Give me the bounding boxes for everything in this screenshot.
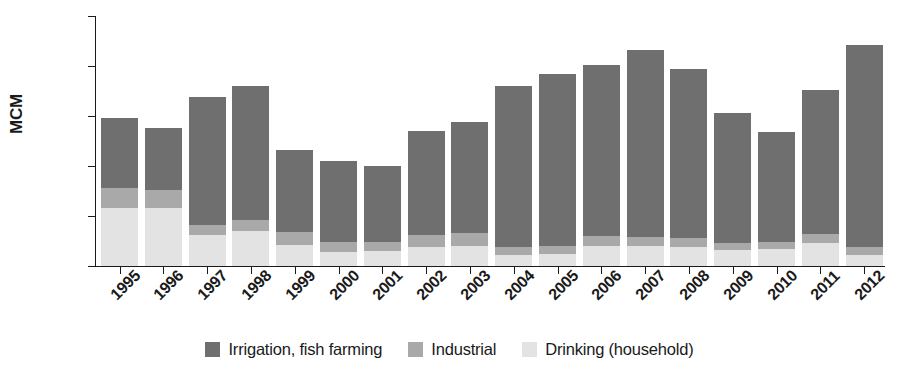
x-axis-label-2004: 2004 — [501, 267, 538, 304]
bar-segment-drinking-household — [145, 208, 182, 266]
x-axis-tick — [470, 266, 471, 274]
y-axis-tick — [88, 116, 95, 117]
bar-segment-drinking-household — [714, 250, 751, 266]
x-axis-tick — [864, 266, 865, 274]
x-axis-tick — [163, 266, 164, 274]
bar-2003[interactable] — [451, 122, 488, 266]
bar-segment-irrigation-fish-farming — [539, 74, 576, 246]
x-axis-label-2002: 2002 — [413, 267, 450, 304]
bar-segment-drinking-household — [189, 235, 226, 266]
bar-segment-irrigation-fish-farming — [364, 166, 401, 242]
x-axis-label-2007: 2007 — [632, 267, 669, 304]
bar-2000[interactable] — [320, 161, 357, 266]
legend-swatch-icon — [408, 342, 423, 357]
legend-item[interactable]: Industrial — [408, 340, 496, 359]
bar-2009[interactable] — [714, 113, 751, 266]
x-axis-tick — [645, 266, 646, 274]
bar-segment-drinking-household — [583, 246, 620, 266]
bar-segment-irrigation-fish-farming — [232, 86, 269, 220]
bar-2006[interactable] — [583, 65, 620, 266]
bar-segment-irrigation-fish-farming — [145, 128, 182, 190]
x-axis-label-2001: 2001 — [369, 267, 406, 304]
bar-2005[interactable] — [539, 74, 576, 266]
y-axis-tick — [88, 166, 95, 167]
x-axis-tick — [120, 266, 121, 274]
bar-segment-industrial — [276, 232, 313, 245]
x-axis-label-2009: 2009 — [720, 267, 757, 304]
bar-segment-drinking-household — [232, 231, 269, 266]
bar-segment-industrial — [627, 237, 664, 246]
legend-item[interactable]: Drinking (household) — [522, 340, 693, 359]
legend-label: Irrigation, fish farming — [228, 340, 382, 359]
bar-segment-drinking-household — [364, 251, 401, 266]
bar-segment-irrigation-fish-farming — [451, 122, 488, 233]
x-axis-label-2005: 2005 — [545, 267, 582, 304]
bar-2002[interactable] — [408, 131, 445, 266]
bar-segment-drinking-household — [627, 246, 664, 266]
x-axis-label-2003: 2003 — [457, 267, 494, 304]
bar-segment-irrigation-fish-farming — [714, 113, 751, 243]
x-axis-label-2010: 2010 — [764, 267, 801, 304]
bar-1997[interactable] — [189, 97, 226, 266]
bar-segment-industrial — [320, 242, 357, 252]
bar-2007[interactable] — [627, 50, 664, 266]
bar-2004[interactable] — [495, 86, 532, 266]
bar-segment-drinking-household — [495, 255, 532, 266]
x-axis-tick — [295, 266, 296, 274]
bar-segment-industrial — [408, 235, 445, 247]
legend-label: Drinking (household) — [545, 340, 693, 359]
bar-2012[interactable] — [846, 45, 883, 266]
bar-segment-industrial — [232, 220, 269, 231]
bar-segment-irrigation-fish-farming — [189, 97, 226, 225]
x-axis-label-1995: 1995 — [107, 267, 144, 304]
x-axis-label-2000: 2000 — [326, 267, 363, 304]
bar-segment-industrial — [846, 247, 883, 255]
bar-2001[interactable] — [364, 166, 401, 266]
bar-segment-irrigation-fish-farming — [495, 86, 532, 247]
bar-1998[interactable] — [232, 86, 269, 266]
x-axis-tick — [339, 266, 340, 274]
bar-2011[interactable] — [802, 90, 839, 266]
x-axis-label-2006: 2006 — [588, 267, 625, 304]
bar-segment-irrigation-fish-farming — [627, 50, 664, 237]
x-axis-tick — [251, 266, 252, 274]
bar-segment-irrigation-fish-farming — [276, 150, 313, 232]
bar-segment-industrial — [583, 236, 620, 246]
bar-segment-industrial — [451, 233, 488, 246]
bar-segment-industrial — [670, 238, 707, 247]
bar-segment-irrigation-fish-farming — [802, 90, 839, 234]
stacked-bar-chart: MCM 05001,0001,5002,0002,500199519961997… — [0, 0, 899, 370]
bar-1995[interactable] — [101, 118, 138, 266]
x-axis-tick — [426, 266, 427, 274]
bar-1996[interactable] — [145, 128, 182, 266]
bar-segment-irrigation-fish-farming — [670, 69, 707, 238]
bar-segment-irrigation-fish-farming — [583, 65, 620, 236]
bar-segment-drinking-household — [758, 249, 795, 266]
x-axis-label-1998: 1998 — [238, 267, 275, 304]
x-axis-tick — [207, 266, 208, 274]
chart-legend: Irrigation, fish farmingIndustrialDrinki… — [0, 340, 899, 359]
bar-segment-industrial — [189, 225, 226, 235]
bar-segment-irrigation-fish-farming — [320, 161, 357, 242]
x-axis-tick — [382, 266, 383, 274]
legend-item[interactable]: Irrigation, fish farming — [205, 340, 382, 359]
x-axis-tick — [558, 266, 559, 274]
bar-segment-drinking-household — [276, 245, 313, 266]
bar-2008[interactable] — [670, 69, 707, 266]
plot-area: 05001,0001,5002,0002,5001995199619971998… — [95, 16, 885, 266]
bar-2010[interactable] — [758, 132, 795, 266]
x-axis-tick — [733, 266, 734, 274]
bar-segment-industrial — [802, 234, 839, 243]
x-axis-label-1996: 1996 — [150, 267, 187, 304]
bar-segment-drinking-household — [670, 247, 707, 266]
x-axis-label-1997: 1997 — [194, 267, 231, 304]
bar-segment-drinking-household — [408, 247, 445, 266]
y-axis-tick — [88, 266, 95, 267]
x-axis-tick — [514, 266, 515, 274]
bar-1999[interactable] — [276, 150, 313, 266]
x-axis-tick — [820, 266, 821, 274]
bar-segment-industrial — [495, 247, 532, 255]
legend-swatch-icon — [205, 342, 220, 357]
x-axis-tick — [777, 266, 778, 274]
bar-segment-drinking-household — [320, 252, 357, 266]
